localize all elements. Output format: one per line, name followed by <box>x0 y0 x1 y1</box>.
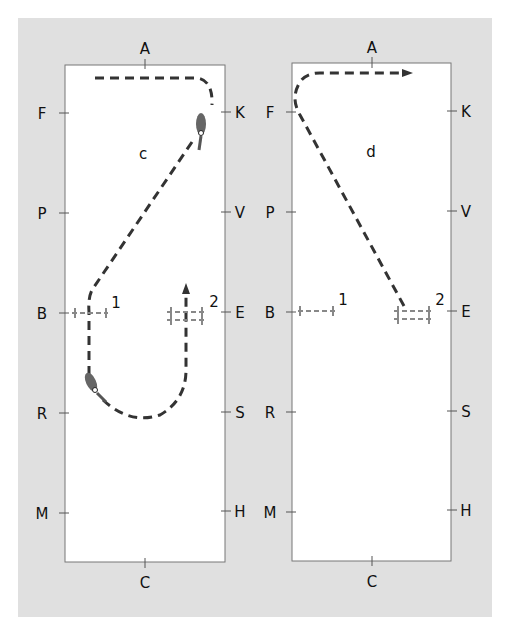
marker-m: M <box>36 505 49 523</box>
diagram-label-c: c <box>139 145 147 163</box>
marker-h: H <box>234 503 245 521</box>
arena-c: A C F P B R M K V E S H c 1 2 <box>36 40 247 592</box>
diagram-label-d: d <box>366 143 376 161</box>
marker-f: F <box>266 104 275 122</box>
arena-diagrams: A C F P B R M K V E S H c 1 2 A <box>0 0 508 617</box>
marker-b: B <box>265 304 275 322</box>
marker-p: P <box>37 205 46 223</box>
marker-s: S <box>235 404 245 422</box>
marker-r: R <box>265 404 275 422</box>
pole-label-2: 2 <box>209 293 219 311</box>
pole-label-1: 1 <box>338 291 348 309</box>
marker-s: S <box>461 403 471 421</box>
marker-a: A <box>140 40 151 58</box>
marker-r: R <box>37 405 47 423</box>
marker-a: A <box>367 39 378 57</box>
marker-e: E <box>235 304 244 322</box>
marker-m: M <box>264 504 277 522</box>
marker-v: V <box>235 204 246 222</box>
marker-v: V <box>461 203 472 221</box>
pole-label-2: 2 <box>435 291 445 309</box>
marker-e: E <box>461 303 470 321</box>
arena-d: A C F P B R M K V E S H d 1 2 <box>264 39 473 591</box>
marker-f: F <box>38 105 47 123</box>
marker-c: C <box>367 573 377 591</box>
pole-label-1: 1 <box>111 294 121 312</box>
marker-p: P <box>265 204 274 222</box>
marker-k: K <box>235 104 246 122</box>
marker-c: C <box>140 574 150 592</box>
marker-h: H <box>460 502 471 520</box>
marker-k: K <box>461 103 472 121</box>
marker-b: B <box>37 305 47 323</box>
